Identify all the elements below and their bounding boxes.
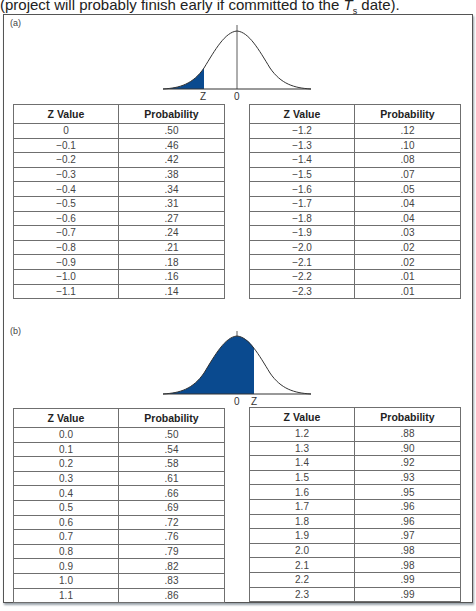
table-row: 1.9.97	[250, 529, 461, 544]
normal-curve-cumulative	[160, 330, 315, 400]
table-row: −1.0.16	[14, 269, 225, 284]
normal-curve-left-tail	[160, 24, 315, 94]
table-row: 1.2.88	[250, 427, 461, 442]
table-row: 0.7.76	[14, 530, 225, 545]
probability-header: Probability	[119, 409, 225, 428]
table-header-row: Z Value Probability	[250, 105, 461, 124]
caption-text: (project will probably finish early if c…	[0, 0, 343, 13]
table-row: −2.0.02	[250, 240, 461, 255]
z-table-a-left: Z Value Probability 0.50 −0.1.46 −0.2.42…	[13, 104, 225, 299]
table-row: 2.3.99	[250, 587, 461, 602]
table-row: 1.6.95	[250, 485, 461, 500]
table-row: −0.2.42	[14, 153, 225, 168]
table-row: −0.6.27	[14, 211, 225, 226]
table-row: 2.0.98	[250, 543, 461, 558]
table-row: 0.2.58	[14, 457, 225, 472]
table-header-row: Z Value Probability	[14, 409, 225, 428]
table-row: −0.1.46	[14, 138, 225, 153]
table-row: 1.4.92	[250, 456, 461, 471]
table-row: 0.1.54	[14, 442, 225, 457]
table-row: −1.8.04	[250, 211, 461, 226]
table-row: −0.8.21	[14, 240, 225, 255]
table-row: −1.1.14	[14, 284, 225, 299]
table-row: 1.1.86	[14, 588, 225, 603]
table-row: 1.5.93	[250, 470, 461, 485]
z-value-header: Z Value	[14, 409, 119, 428]
table-row: −1.7.04	[250, 196, 461, 211]
probability-header: Probability	[119, 105, 225, 124]
table-row: 0.4.66	[14, 486, 225, 501]
caption-text-end: date).	[357, 0, 400, 13]
table-row: −0.4.34	[14, 182, 225, 197]
z-axis-label-b: Z	[251, 396, 257, 407]
table-row: −1.9.03	[250, 226, 461, 241]
table-row: −0.7.24	[14, 226, 225, 241]
table-row: 0.8.79	[14, 544, 225, 559]
probability-header: Probability	[355, 105, 461, 124]
z-axis-label-a: Z	[200, 91, 206, 102]
table-row: 2.1.98	[250, 558, 461, 573]
table-row: −1.3.10	[250, 138, 461, 153]
table-row: 1.8.96	[250, 514, 461, 529]
table-row: −0.3.38	[14, 167, 225, 182]
z-table-b-right: Z Value Probability 1.2.88 1.3.90 1.4.92…	[249, 407, 461, 602]
zero-axis-label-a: 0	[234, 91, 240, 102]
table-row: −0.5.31	[14, 196, 225, 211]
z-value-header: Z Value	[14, 105, 119, 124]
table-row: −1.5.07	[250, 167, 461, 182]
ts-symbol: Ts	[343, 0, 357, 13]
table-row: 1.7.96	[250, 499, 461, 514]
zero-axis-label-b: 0	[234, 396, 240, 407]
table-row: 1.0.83	[14, 573, 225, 588]
z-value-header: Z Value	[250, 408, 355, 427]
table-row: 2.2.99	[250, 572, 461, 587]
table-row: 0.0.50	[14, 428, 225, 443]
table-row: 1.3.90	[250, 441, 461, 456]
probability-header: Probability	[355, 408, 461, 427]
table-row: −1.2.12	[250, 124, 461, 139]
table-header-row: Z Value Probability	[250, 408, 461, 427]
table-row: −2.3.01	[250, 284, 461, 299]
table-row: 0.50	[14, 124, 225, 139]
table-row: −2.2.01	[250, 269, 461, 284]
table-row: 0.9.82	[14, 559, 225, 574]
table-row: −1.4.08	[250, 153, 461, 168]
panel-a-label: (a)	[10, 18, 21, 28]
table-header-row: Z Value Probability	[14, 105, 225, 124]
z-value-header: Z Value	[250, 105, 355, 124]
table-row: 0.6.72	[14, 515, 225, 530]
table-row: 0.5.69	[14, 500, 225, 515]
table-row: −2.1.02	[250, 255, 461, 270]
table-row: 0.3.61	[14, 471, 225, 486]
z-table-b-left: Z Value Probability 0.0.50 0.1.54 0.2.58…	[13, 408, 225, 603]
table-row: −0.9.18	[14, 255, 225, 270]
table-row: −1.6.05	[250, 182, 461, 197]
z-table-a-right: Z Value Probability −1.2.12 −1.3.10 −1.4…	[249, 104, 461, 299]
panel-b-label: (b)	[10, 326, 21, 336]
